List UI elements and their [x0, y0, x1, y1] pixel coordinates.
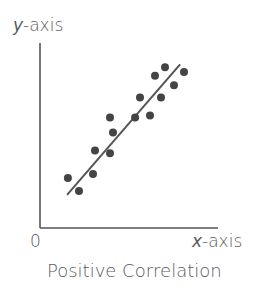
data-point: [106, 113, 114, 121]
scatter-plot: [0, 0, 263, 298]
data-point: [157, 93, 165, 101]
trend-line: [67, 64, 180, 195]
origin-label: 0: [30, 231, 41, 251]
x-axis-label: x-axis: [192, 231, 242, 251]
data-point: [64, 174, 72, 182]
data-point: [109, 128, 117, 136]
data-point: [89, 170, 97, 178]
data-point: [151, 72, 159, 80]
y-axis-label: y-axis: [13, 15, 63, 35]
data-point: [136, 93, 144, 101]
data-point: [146, 112, 154, 120]
data-point: [180, 68, 188, 76]
data-points: [64, 63, 188, 195]
data-point: [161, 63, 169, 71]
data-point: [131, 113, 139, 121]
data-point: [106, 149, 114, 157]
data-point: [75, 187, 83, 195]
chart-title: Positive Correlation: [47, 260, 222, 281]
data-point: [170, 81, 178, 89]
data-point: [91, 147, 99, 155]
